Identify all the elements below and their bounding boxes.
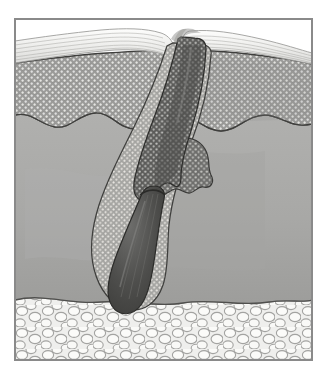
skin-cross-section-illustration xyxy=(15,19,312,360)
illustration-canvas: Cross-section of human skin with a hair … xyxy=(0,0,330,378)
illustration-frame xyxy=(14,18,313,361)
subcutis-layer xyxy=(15,298,312,360)
